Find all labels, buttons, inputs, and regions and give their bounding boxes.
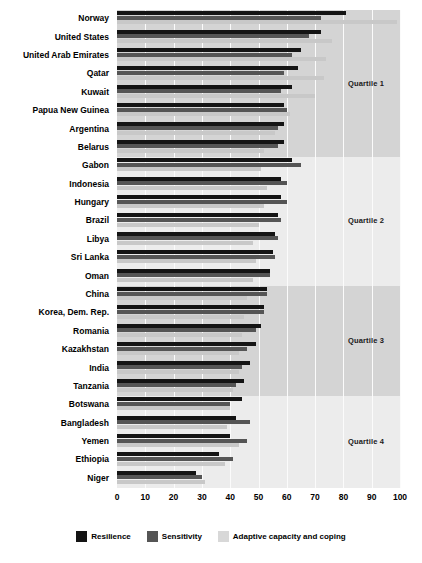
- bar-resilience: [117, 48, 301, 52]
- y-axis-label: Oman: [85, 271, 109, 281]
- bar-sensitivity: [117, 200, 287, 204]
- bar-group: [117, 103, 400, 121]
- bar-adaptive: [117, 462, 225, 466]
- bar-resilience: [117, 177, 281, 181]
- y-axis-label: Kazakhstan: [62, 344, 109, 354]
- bar-adaptive: [117, 351, 239, 355]
- y-axis-label: Brazil: [86, 215, 109, 225]
- bar-resilience: [117, 342, 256, 346]
- bar-adaptive: [117, 480, 205, 484]
- bar-adaptive: [117, 259, 256, 263]
- y-axis-label: Bangladesh: [61, 418, 109, 428]
- bar-resilience: [117, 397, 242, 401]
- y-axis-label: Gabon: [82, 160, 109, 170]
- bar-adaptive: [117, 370, 239, 374]
- x-axis-tick: 50: [254, 492, 263, 502]
- bar-resilience: [117, 103, 284, 107]
- bar-adaptive: [117, 315, 244, 319]
- bar-sensitivity: [117, 383, 236, 387]
- bar-adaptive: [117, 406, 230, 410]
- bar-resilience: [117, 250, 273, 254]
- bar-sensitivity: [117, 420, 250, 424]
- bar-sensitivity: [117, 218, 281, 222]
- bar-sensitivity: [117, 310, 264, 314]
- y-axis-label: Ethiopia: [75, 454, 109, 464]
- legend-swatch-adaptive: [218, 531, 229, 542]
- x-axis-tick: 30: [197, 492, 206, 502]
- bar-adaptive: [117, 57, 326, 61]
- bar-resilience: [117, 452, 219, 456]
- bar-group: [117, 379, 400, 397]
- y-axis-label: Botswana: [69, 399, 109, 409]
- bar-sensitivity: [117, 16, 321, 20]
- bar-group: [117, 397, 400, 415]
- bar-resilience: [117, 213, 278, 217]
- bar-group: [117, 11, 400, 29]
- bar-adaptive: [117, 39, 332, 43]
- bar-group: [117, 250, 400, 268]
- bar-sensitivity: [117, 181, 287, 185]
- x-axis-tick: 60: [282, 492, 291, 502]
- bar-sensitivity: [117, 328, 256, 332]
- bar-adaptive: [117, 112, 290, 116]
- x-axis: 0102030405060708090100: [117, 492, 400, 508]
- bar-resilience: [117, 379, 244, 383]
- legend-item[interactable]: Adaptive capacity and coping: [218, 531, 346, 542]
- bar-sensitivity: [117, 365, 242, 369]
- bar-group: [117, 140, 400, 158]
- bar-resilience: [117, 361, 250, 365]
- bar-adaptive: [117, 20, 397, 24]
- bar-group: [117, 305, 400, 323]
- y-axis-label: Hungary: [75, 197, 109, 207]
- y-axis-label: Romania: [73, 326, 109, 336]
- y-axis-label: Libya: [87, 234, 109, 244]
- bar-resilience: [117, 195, 281, 199]
- bar-sensitivity: [117, 236, 278, 240]
- bar-sensitivity: [117, 144, 278, 148]
- chart-root: Quartile 1Quartile 2Quartile 3Quartile 4…: [0, 0, 422, 563]
- y-axis-label: Yemen: [82, 436, 109, 446]
- bar-adaptive: [117, 204, 264, 208]
- y-axis-label: United Arab Emirates: [23, 50, 109, 60]
- bar-resilience: [117, 66, 298, 70]
- bar-sensitivity: [117, 255, 275, 259]
- quartile-label: Quartile 1: [348, 79, 384, 88]
- gridline: [400, 10, 401, 488]
- bar-resilience: [117, 434, 230, 438]
- quartile-label: Quartile 4: [348, 437, 384, 446]
- bar-group: [117, 361, 400, 379]
- plot-area: Quartile 1Quartile 2Quartile 3Quartile 4: [117, 10, 400, 488]
- x-axis-tick: 100: [393, 492, 407, 502]
- y-axis-labels: NorwayUnited StatesUnited Arab EmiratesQ…: [0, 10, 113, 488]
- bar-sensitivity: [117, 108, 287, 112]
- bar-resilience: [117, 305, 264, 309]
- bar-resilience: [117, 122, 284, 126]
- bar-resilience: [117, 324, 261, 328]
- bar-adaptive: [117, 131, 275, 135]
- y-axis-label: Tanzania: [73, 381, 109, 391]
- x-axis-tick: 10: [141, 492, 150, 502]
- bar-adaptive: [117, 76, 324, 80]
- x-axis-tick: 90: [367, 492, 376, 502]
- legend-swatch-sensitivity: [147, 531, 158, 542]
- y-axis-label: Argentina: [69, 124, 109, 134]
- bar-adaptive: [117, 149, 264, 153]
- bar-group: [117, 287, 400, 305]
- bar-adaptive: [117, 443, 239, 447]
- bar-adaptive: [117, 223, 259, 227]
- bar-adaptive: [117, 94, 315, 98]
- y-axis-label: India: [89, 363, 109, 373]
- legend-item[interactable]: Sensitivity: [147, 531, 202, 542]
- bar-resilience: [117, 416, 236, 420]
- legend-swatch-resilience: [76, 531, 87, 542]
- bar-group: [117, 122, 400, 140]
- bar-resilience: [117, 269, 270, 273]
- legend-item[interactable]: Resilience: [76, 531, 131, 542]
- bar-sensitivity: [117, 89, 281, 93]
- bar-resilience: [117, 232, 275, 236]
- x-axis-tick: 70: [310, 492, 319, 502]
- x-axis-tick: 20: [169, 492, 178, 502]
- y-axis-label: Papua New Guinea: [32, 105, 109, 115]
- bar-adaptive: [117, 278, 253, 282]
- y-axis-label: United States: [55, 32, 109, 42]
